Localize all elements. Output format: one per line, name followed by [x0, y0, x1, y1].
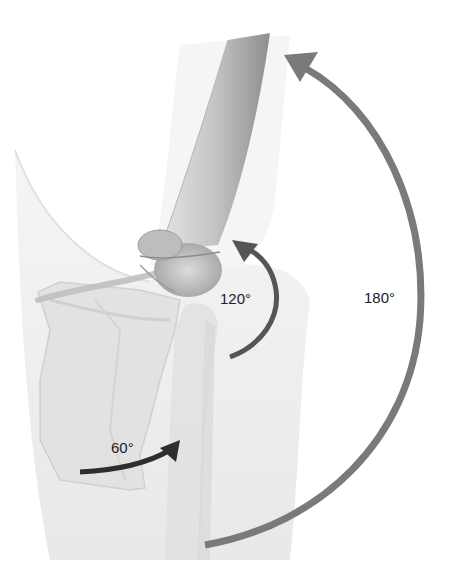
angle-label-180: 180°: [364, 289, 395, 306]
angle-label-60: 60°: [111, 439, 134, 456]
shoulder-abduction-diagram: 120° 60° 180°: [0, 0, 459, 581]
angle-label-120: 120°: [220, 290, 251, 307]
